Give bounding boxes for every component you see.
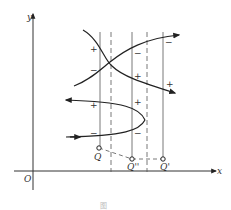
solid-verticals [100,32,163,159]
decreasing-curve [83,30,175,93]
svg-text:+: + [134,71,142,81]
point-q [97,146,101,150]
x-axis-label: x [217,166,222,176]
figure-caption: 图 [100,202,107,210]
point-q-prime [161,157,165,161]
dashed-verticals [111,32,147,172]
svg-text:−: − [134,48,142,58]
label-q: Q [94,152,102,162]
label-q-prime: Q' [160,162,170,172]
svg-text:+: + [90,44,98,54]
origin-label: O [24,174,32,184]
phase-diagram: y x O + − − + − + + + − − Q Q'' Q' 图 [0,0,231,210]
svg-text:−: − [90,65,98,75]
label-q-double-prime: Q'' [127,162,139,172]
svg-text:−: − [90,128,98,138]
svg-text:+: + [134,97,142,107]
q-dashed-connector [99,148,132,159]
svg-text:−: − [165,37,173,47]
svg-text:+: + [90,100,98,110]
y-axis-label: y [26,12,33,22]
svg-text:−: − [134,128,142,138]
point-q-double-prime [130,157,134,161]
svg-text:+: + [166,79,174,89]
